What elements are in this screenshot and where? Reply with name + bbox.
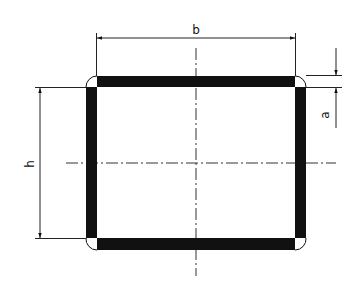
bottom-wall (97, 238, 295, 250)
corner-bottom-left (86, 238, 97, 250)
dimension-h (35, 88, 86, 239)
right-wall (295, 87, 306, 238)
left-wall (86, 87, 97, 238)
dimension-label-b: b (192, 23, 200, 37)
top-wall (97, 76, 295, 87)
corner-bottom-right (295, 238, 306, 250)
dimension-label-a: a (318, 111, 332, 118)
corner-top-left (86, 76, 97, 87)
rectangular-profile-drawing: b h a (0, 0, 360, 284)
dimension-label-h: h (23, 160, 37, 168)
corner-top-right (295, 76, 306, 87)
